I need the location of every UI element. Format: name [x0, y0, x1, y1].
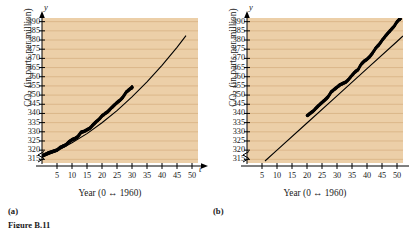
chart-panel-b: CO2 (in parts per million) y 31532032533… [205, 0, 409, 228]
y-tick-label: 335 [28, 119, 40, 127]
x-tick-labels-a: 5101520253035404550 [42, 172, 207, 184]
x-tick-label: 50 [188, 172, 196, 180]
x-tick-label: 20 [303, 172, 311, 180]
y-tick-label: 365 [28, 63, 40, 71]
x-tick-label: 20 [98, 172, 106, 180]
y-tick-label: 380 [28, 36, 40, 44]
x-tick-label: 25 [113, 172, 121, 180]
x-tick-label: 30 [333, 172, 341, 180]
x-tick-label: 45 [173, 172, 181, 180]
y-tick-label: 330 [233, 128, 245, 136]
y-tick-label: 315 [28, 155, 40, 163]
y-tick-label: 330 [28, 128, 40, 136]
y-tick-label: 340 [233, 109, 245, 117]
x-tick-label: 10 [68, 172, 76, 180]
x-axis-title-b: Year (0 ↔ 1960) [235, 188, 395, 198]
x-tick-label: 45 [378, 172, 386, 180]
y-tick-label: 345 [28, 100, 40, 108]
figure-caption: Figure B.11 [8, 220, 50, 228]
plot-area-b [247, 18, 403, 163]
x-tick-label: 5 [55, 172, 59, 180]
y-tick-label: 375 [233, 45, 245, 53]
y-tick-label: 385 [233, 27, 245, 35]
y-tick-label: 360 [233, 73, 245, 81]
panel-tag-a: (a) [8, 206, 18, 216]
y-tick-labels-b: 3153203253303353403453503553603653703753… [223, 18, 245, 163]
x-tick-label: 35 [143, 172, 151, 180]
y-tick-label: 315 [233, 155, 245, 163]
x-tick-label: 5 [260, 172, 264, 180]
y-axis-symbol-b: y [249, 2, 253, 12]
y-tick-label: 320 [28, 146, 40, 154]
panel-tag-b: (b) [213, 206, 224, 216]
gridlines-a [42, 22, 198, 160]
chart-panel-a: CO2 (in parts per million) y t 315320325… [0, 0, 204, 228]
y-tick-label: 385 [28, 27, 40, 35]
y-tick-label: 340 [28, 109, 40, 117]
plot-svg-b [247, 18, 403, 163]
x-tick-label: 30 [128, 172, 136, 180]
y-tick-label: 325 [28, 137, 40, 145]
x-tick-label: 15 [288, 172, 296, 180]
x-axis-title-a: Year (0 ↔ 1960) [30, 188, 190, 198]
x-tick-label: 15 [83, 172, 91, 180]
y-tick-label: 370 [233, 54, 245, 62]
x-tick-label: 40 [158, 172, 166, 180]
y-tick-label: 345 [233, 100, 245, 108]
x-tick-labels-b: 5101520253035404550 [247, 172, 409, 184]
x-tick-label: 35 [348, 172, 356, 180]
y-axis-symbol-a: y [44, 2, 48, 12]
model-curve-a [42, 36, 186, 158]
x-tick-label: 40 [363, 172, 371, 180]
y-tick-label: 320 [233, 146, 245, 154]
y-tick-label: 390 [233, 18, 245, 26]
y-tick-label: 335 [233, 119, 245, 127]
y-tick-label: 390 [28, 18, 40, 26]
y-tick-label: 355 [28, 82, 40, 90]
y-tick-label: 325 [233, 137, 245, 145]
y-tick-label: 350 [233, 91, 245, 99]
y-tick-label: 350 [28, 91, 40, 99]
y-tick-labels-a: 3153203253303353403453503553603653703753… [18, 18, 40, 163]
y-tick-label: 380 [233, 36, 245, 44]
y-tick-label: 355 [233, 82, 245, 90]
plot-svg-a [42, 18, 198, 163]
plot-area-a [42, 18, 198, 163]
y-tick-label: 365 [233, 63, 245, 71]
x-tick-label: 25 [318, 172, 326, 180]
data-points-a [42, 86, 133, 158]
y-tick-label: 360 [28, 73, 40, 81]
y-tick-label: 375 [28, 45, 40, 53]
y-tick-label: 370 [28, 54, 40, 62]
x-tick-label: 10 [273, 172, 281, 180]
x-tick-label: 50 [393, 172, 401, 180]
model-curve-b [265, 36, 403, 161]
